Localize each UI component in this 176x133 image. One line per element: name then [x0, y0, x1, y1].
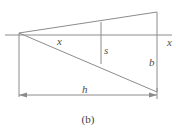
lower-ray-line — [19, 33, 157, 92]
label-s: s — [104, 45, 108, 56]
label-x-mid: x — [57, 36, 62, 47]
dimension-arrow-right-icon — [149, 92, 157, 97]
figure-caption: (b) — [0, 114, 176, 125]
label-b: b — [149, 57, 155, 68]
label-h: h — [82, 84, 88, 95]
label-x-axis: x — [167, 37, 172, 48]
dimension-arrow-left-icon — [19, 92, 27, 97]
upper-ray-line — [19, 12, 157, 33]
figure-container: x x s b h (b) — [0, 0, 176, 133]
